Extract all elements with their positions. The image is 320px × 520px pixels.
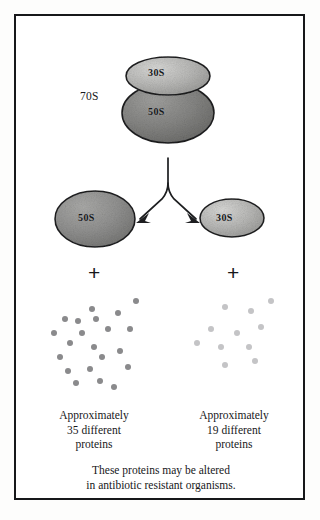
caption-right-line2: 19 different [178,423,290,438]
protein-dot [105,326,111,332]
protein-dot-cloud-30s [190,296,285,388]
protein-dot [218,344,224,350]
protein-dot [51,330,57,336]
protein-dot [125,364,131,370]
label-50s-free: 50S [78,212,95,223]
protein-dot [258,324,264,330]
caption-left-line3: proteins [38,437,150,452]
caption-left-line2: 35 different [38,423,150,438]
caption-30s-proteins: Approximately 19 different proteins [178,408,290,452]
caption-50s-proteins: Approximately 35 different proteins [38,408,150,452]
protein-dot [99,354,105,360]
protein-dot [75,318,81,324]
protein-dot [117,348,123,354]
protein-dot [97,378,103,384]
protein-dot [234,330,240,336]
protein-dot [222,304,228,310]
protein-dot [268,298,274,304]
label-50s-in-complex: 50S [148,106,165,117]
protein-dot [127,326,133,332]
protein-dot [67,340,73,346]
caption-left-line1: Approximately [38,408,150,423]
protein-dot [222,362,228,368]
protein-dot [79,330,85,336]
protein-dot [89,306,95,312]
plus-sign-right: + [227,262,239,283]
caption-right-line1: Approximately [178,408,290,423]
protein-dot [252,358,258,364]
plus-sign-left: + [88,262,100,283]
protein-dot [248,308,254,314]
protein-dot [65,368,71,374]
protein-dot [208,326,214,332]
protein-dot [246,344,252,350]
protein-dot [91,344,97,350]
label-30s-free: 30S [216,212,233,223]
protein-dot [93,316,99,322]
protein-dot [194,340,200,346]
protein-dot-cloud-50s [45,292,160,392]
footer-line1: These proteins may be altered [36,463,286,478]
protein-dot [111,384,117,390]
caption-right-line3: proteins [178,437,290,452]
footer-note: These proteins may be altered in antibio… [36,463,286,493]
protein-dot [62,316,68,322]
protein-dot [57,354,63,360]
protein-dot [87,366,93,372]
footer-line2: in antibiotic resistant organisms. [36,478,286,493]
protein-dot [115,310,121,316]
label-30s-in-complex: 30S [148,67,165,78]
ribosome-dissociation-figure: 70S 30S 50S 50S 30S + + Approximately 35… [0,0,320,520]
label-70s: 70S [80,90,99,102]
protein-dot [73,380,79,386]
protein-dot [133,298,139,304]
